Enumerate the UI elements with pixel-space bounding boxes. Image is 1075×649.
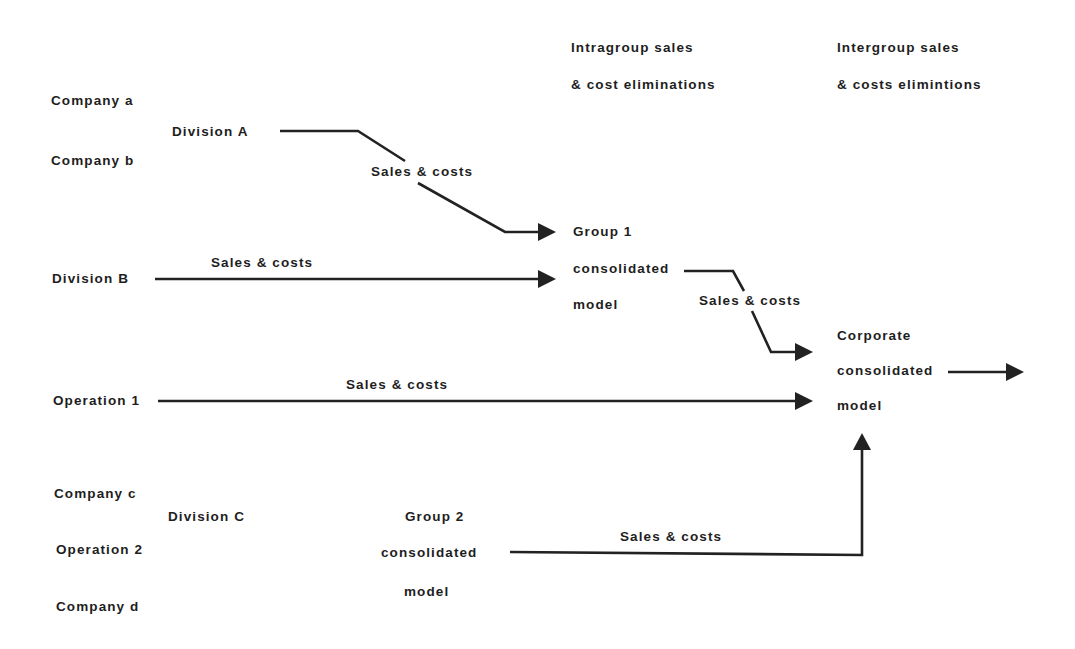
entity-division-c: Division C (168, 509, 245, 525)
entity-operation-2: Operation 2 (56, 542, 143, 558)
connector-layer (0, 0, 1075, 649)
group1-model-line3: model (573, 297, 618, 313)
flow-label-operation1: Sales & costs (346, 377, 448, 393)
entity-company-d: Company d (56, 599, 139, 615)
intragroup-header-line2: & cost eliminations (571, 77, 716, 93)
entity-company-c: Company c (54, 486, 137, 502)
flow-label-group1: Sales & costs (699, 293, 801, 309)
arrowhead-icon (538, 270, 556, 288)
arrowhead-icon (1006, 363, 1024, 381)
arrowhead-icon (538, 223, 556, 241)
flow-label-division-a: Sales & costs (371, 164, 473, 180)
flow-group1-to-corporate (684, 271, 813, 361)
arrowhead-icon (853, 433, 871, 450)
corporate-model-line1: Corporate (837, 328, 911, 344)
flow-division-a-to-group1 (280, 131, 556, 241)
flow-label-division-b: Sales & costs (211, 255, 313, 271)
intergroup-header-line1: Intergroup sales (837, 40, 960, 56)
intergroup-header-line2: & costs elimintions (837, 77, 982, 93)
flow-operation1-to-corporate (158, 392, 813, 410)
entity-company-a: Company a (51, 93, 134, 109)
flow-corporate-output (948, 363, 1024, 381)
group2-model-line1: Group 2 (405, 509, 464, 525)
corporate-model-line2: consolidated (837, 363, 933, 379)
group1-model-line1: Group 1 (573, 224, 632, 240)
group2-model-line3: model (404, 584, 449, 600)
arrowhead-icon (795, 343, 813, 361)
flow-label-group2: Sales & costs (620, 529, 722, 545)
entity-division-b: Division B (52, 271, 129, 287)
group1-model-line2: consolidated (573, 261, 669, 277)
entity-operation-1: Operation 1 (53, 393, 140, 409)
group2-model-line2: consolidated (381, 545, 477, 561)
entity-company-b: Company b (51, 153, 134, 169)
arrowhead-icon (795, 392, 813, 410)
entity-division-a: Division A (172, 124, 249, 140)
flow-division-b-to-group1 (155, 270, 556, 288)
intragroup-header-line1: Intragroup sales (571, 40, 694, 56)
corporate-model-line3: model (837, 398, 882, 414)
